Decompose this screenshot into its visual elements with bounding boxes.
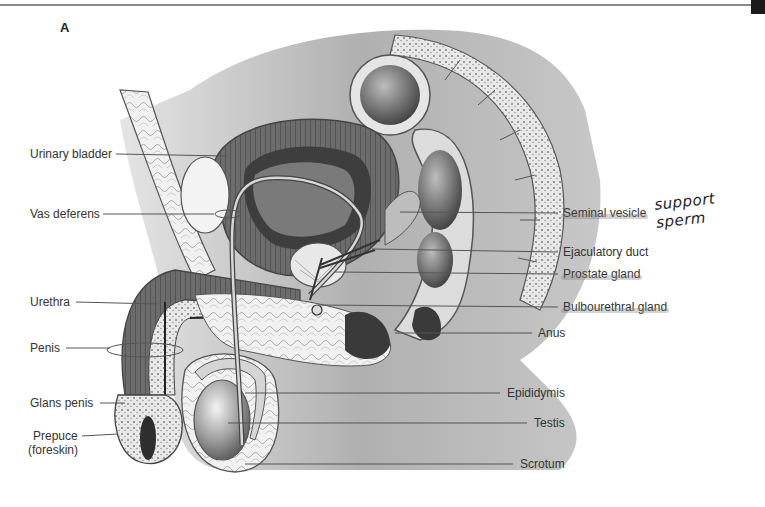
label-glans-penis: Glans penis [30, 396, 93, 410]
label-prostate-gland: Prostate gland [563, 267, 640, 281]
label-prepuce: Prepuce [33, 429, 78, 443]
label-seminal-vesicle: Seminal vesicle [563, 206, 646, 220]
anatomy-illustration [0, 0, 765, 507]
label-testis: Testis [534, 416, 565, 430]
label-anus: Anus [538, 326, 565, 340]
label-scrotum: Scrotum [520, 457, 565, 471]
label-vas-deferens: Vas deferens [30, 207, 100, 221]
label-bulbourethral-gland: Bulbourethral gland [563, 300, 667, 314]
label-prepuce-foreskin: (foreskin) [28, 443, 78, 457]
label-penis: Penis [30, 341, 60, 355]
label-urinary-bladder: Urinary bladder [30, 147, 112, 161]
label-epididymis: Epididymis [507, 386, 565, 400]
label-ejaculatory-duct: Ejaculatory duct [563, 245, 648, 259]
label-urethra: Urethra [30, 295, 70, 309]
